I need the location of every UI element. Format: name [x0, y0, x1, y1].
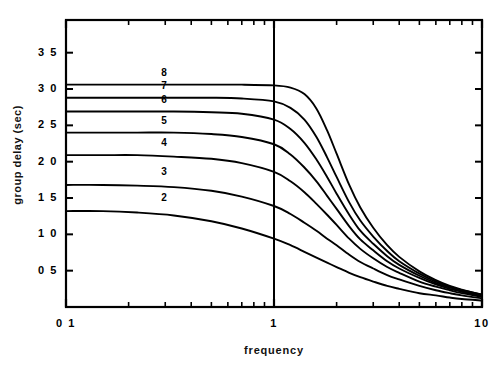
- y-tick-label: 0 5: [24, 264, 58, 276]
- x-axis-title-wrap: frequency: [66, 340, 482, 358]
- y-tick-label: 3 5: [24, 46, 58, 58]
- x-tick-label: 10: [452, 317, 503, 329]
- y-tick-label: 1 0: [24, 227, 58, 239]
- curve-label-5: 5: [157, 115, 171, 126]
- curve-label-7: 7: [157, 80, 171, 91]
- curve-label-3: 3: [157, 166, 171, 177]
- x-tick-label: 1: [244, 317, 304, 329]
- plot-area: [0, 0, 503, 371]
- y-tick-label: 3 0: [24, 82, 58, 94]
- x-tick-label: 0 1: [36, 317, 96, 329]
- y-tick-label: 2 0: [24, 155, 58, 167]
- y-tick-label: 2 5: [24, 118, 58, 130]
- y-tick-label: 1 5: [24, 191, 58, 203]
- curve-label-4: 4: [157, 137, 171, 148]
- curve-label-2: 2: [157, 192, 171, 203]
- curve-label-6: 6: [157, 94, 171, 105]
- curve-label-8: 8: [157, 67, 171, 78]
- x-axis-title: frequency: [244, 344, 304, 356]
- chart-figure: group delay (sec) frequency 3 53 02 52 0…: [0, 0, 503, 371]
